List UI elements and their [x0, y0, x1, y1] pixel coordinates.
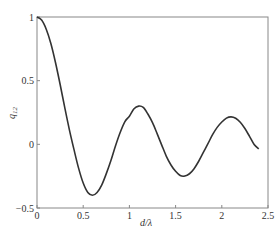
x-tick-label: 1.5	[169, 210, 182, 221]
line-chart: −0.500.51 00.511.522.5 d/λ q12	[0, 0, 279, 238]
data-line-q12	[37, 17, 259, 195]
y-tick-label: −0.5	[16, 203, 34, 214]
y-tick-label: 1	[29, 12, 34, 23]
x-axis-ticks: 00.511.522.5	[35, 205, 275, 221]
y-axis-label: q12	[6, 107, 19, 120]
x-tick-label: 2	[219, 210, 224, 221]
y-axis-ticks: −0.500.51	[16, 12, 40, 214]
y-tick-label: 0	[29, 139, 34, 150]
x-tick-label: 0.5	[77, 210, 90, 221]
y-tick-label: 0.5	[22, 75, 35, 86]
x-tick-label: 0	[35, 210, 40, 221]
svg-text:q12: q12	[6, 107, 19, 120]
x-tick-label: 2.5	[262, 210, 275, 221]
x-tick-label: 1	[127, 210, 132, 221]
x-axis-label: d/λ	[140, 217, 153, 228]
plot-area	[37, 17, 268, 208]
